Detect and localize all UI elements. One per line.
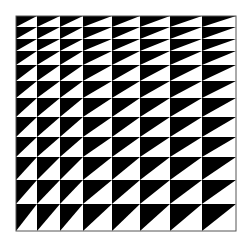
triangle-cells bbox=[16, 16, 236, 231]
triangle-grid-pattern bbox=[0, 0, 252, 243]
